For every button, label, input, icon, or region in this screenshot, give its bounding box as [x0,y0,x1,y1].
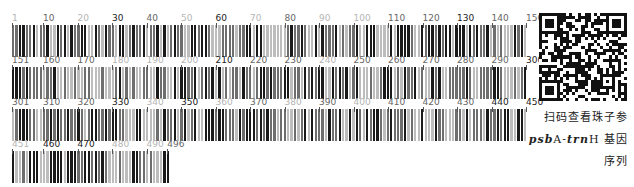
nucleotide-bar [349,67,351,99]
gene-name-italic-2: trn [567,133,589,146]
nucleotide-bar [483,67,485,99]
nucleotide-bar [321,109,323,141]
nucleotide-bar [40,67,42,99]
nucleotide-bar [64,151,66,183]
nucleotide-bar [22,25,24,57]
nucleotide-bar [400,25,402,57]
position-label: 250 [354,55,371,65]
position-label: 60 [216,13,227,23]
nucleotide-bar [95,109,97,141]
nucleotide-bar [339,67,341,99]
nucleotide-bar [349,109,351,141]
nucleotide-bar [222,67,224,99]
nucleotide-bar [294,25,296,57]
tick-mark [43,23,44,28]
nucleotide-bar [70,25,72,57]
nucleotide-bar [136,67,138,99]
nucleotide-bar [101,109,103,141]
nucleotide-bar [19,109,21,141]
nucleotide-bar [304,67,306,99]
nucleotide-bar [177,109,179,141]
nucleotide-bar [469,67,471,99]
position-label: 480 [112,139,129,149]
nucleotide-bar [112,109,114,141]
nucleotide-bar [428,25,430,57]
nucleotide-bar [167,151,169,183]
nucleotide-bar [363,109,365,141]
nucleotide-bar [414,109,416,141]
nucleotide-bar [253,67,255,99]
nucleotide-bar [36,25,38,57]
tick-mark [457,23,458,28]
position-label: 370 [250,97,267,107]
tick-mark [250,23,251,28]
nucleotide-bar [132,67,134,99]
nucleotide-bar [442,67,444,99]
position-label: 390 [319,97,336,107]
nucleotide-bar [132,25,134,57]
nucleotide-bar [201,25,203,57]
nucleotide-bar [359,67,361,99]
nucleotide-bar [445,25,447,57]
nucleotide-bar [19,25,21,57]
nucleotide-bar [473,25,475,57]
position-label: 70 [250,13,261,23]
nucleotide-bar [163,25,165,57]
nucleotide-bar [12,25,14,57]
nucleotide-bar [46,67,48,99]
nucleotide-bar [490,67,492,99]
position-label: 260 [388,55,405,65]
position-label: 470 [78,139,95,149]
nucleotide-bar [366,25,368,57]
nucleotide-bar [363,25,365,57]
nucleotide-bar [222,25,224,57]
nucleotide-bar [146,25,148,57]
nucleotide-bar [397,67,399,99]
tick-mark [388,23,389,28]
nucleotide-bar [46,151,48,183]
nucleotide-bar [143,109,145,141]
nucleotide-bar [239,25,241,57]
nucleotide-bar [428,109,430,141]
nucleotide-bar [431,109,433,141]
nucleotide-bar [325,25,327,57]
tick-mark [43,149,44,154]
nucleotide-bar [112,25,114,57]
position-label: 20 [78,13,89,23]
nucleotide-bar [60,67,62,99]
nucleotide-bar [400,109,402,141]
position-label: 430 [457,97,474,107]
nucleotide-bar [466,25,468,57]
nucleotide-bar [277,109,279,141]
nucleotide-bar [332,109,334,141]
nucleotide-bar [342,25,344,57]
nucleotide-bar [143,67,145,99]
nucleotide-bar [435,109,437,141]
nucleotide-bar [273,67,275,99]
nucleotide-bar [170,109,172,141]
tick-mark [78,149,79,154]
nucleotide-bar [249,25,251,57]
nucleotide-bar [260,67,262,99]
nucleotide-bar [22,109,24,141]
nucleotide-bar [163,109,165,141]
nucleotide-bar [332,25,334,57]
tick-mark [12,23,13,28]
nucleotide-bar [225,109,227,141]
nucleotide-bar [328,109,330,141]
nucleotide-bar [308,25,310,57]
nucleotide-bar [297,25,299,57]
qr-code-icon[interactable] [539,13,627,101]
nucleotide-bar [425,109,427,141]
nucleotide-bar [445,67,447,99]
nucleotide-bar [91,67,93,99]
nucleotide-bar [74,109,76,141]
nucleotide-bar [366,67,368,99]
nucleotide-bar [112,67,114,99]
caption-line-2: psbA-trnH 基因 [529,130,628,146]
nucleotide-bar [201,109,203,141]
nucleotide-bar [376,109,378,141]
nucleotide-bar [177,67,179,99]
nucleotide-bar [218,25,220,57]
nucleotide-bar [88,67,90,99]
